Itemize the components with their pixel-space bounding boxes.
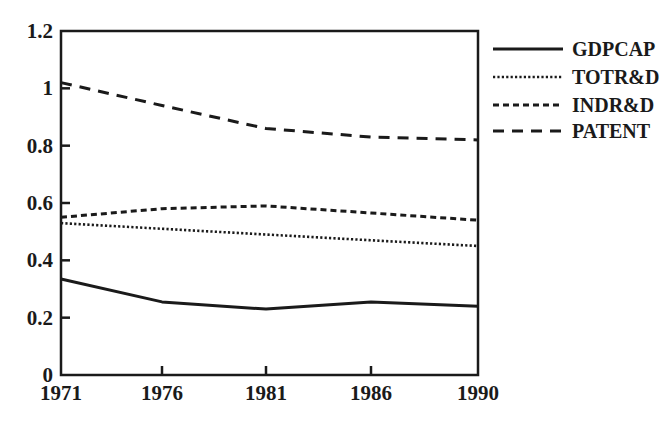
legend-label: GDPCAP [572,38,655,60]
y-tick-label: 0.4 [27,248,54,272]
x-tick-label: 1990 [457,381,499,405]
series-group [61,83,478,310]
series-patent [61,83,478,140]
legend: GDPCAPTOTR&DINDR&DPATENT [493,38,659,142]
y-tick-label: 0.2 [27,306,53,330]
y-tick-label: 0.6 [27,191,53,215]
y-tick-label: 1 [43,76,54,100]
legend-label: INDR&D [572,94,654,116]
series-gdpcap [61,279,478,309]
x-tick-label: 1986 [350,381,392,405]
series-totr-d [61,223,478,246]
y-axis: 00.20.40.60.811.2 [27,19,70,387]
legend-label: PATENT [572,120,651,142]
x-axis: 19711976198119861990 [40,366,499,405]
legend-label: TOTR&D [572,66,659,88]
y-tick-label: 0.8 [27,134,53,158]
x-tick-label: 1981 [245,381,287,405]
plot-frame [61,31,478,375]
x-tick-label: 1976 [141,381,183,405]
x-tick-label: 1971 [40,381,82,405]
y-tick-label: 1.2 [27,19,53,43]
series-indr-d [61,206,478,220]
line-chart: 00.20.40.60.811.2 19711976198119861990 G… [0,0,667,424]
